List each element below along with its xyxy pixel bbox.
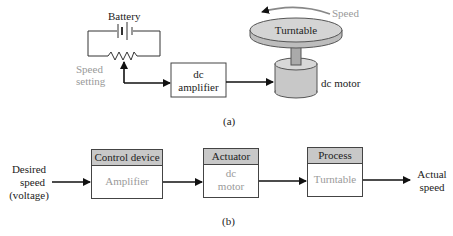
speed-setting-label-1: Speed [76,63,103,75]
caption-a: (a) [223,115,235,127]
block-control-device: Control device Amplifier [91,149,163,199]
speed-label: Speed [332,7,359,19]
block-process: Process Turntable [307,147,363,197]
amplifier-label-2: amplifier [171,81,226,93]
speed-setting-label-2: setting [76,75,105,87]
block-header: Control device [92,150,162,166]
motor-label: dc motor [321,77,360,89]
amplifier-label-1: dc [171,68,226,80]
input-label-1: Desired [2,163,56,175]
block-actuator: Actuator dc motor [203,148,259,198]
block-header: Actuator [204,149,258,165]
block-body-2: motor [204,180,258,193]
block-body-1: dc [204,165,258,180]
output-label-1: Actual [412,168,452,180]
battery-icon [118,22,132,40]
turntable-label: Turntable [256,24,336,36]
block-header: Process [308,148,362,164]
rotation-arrow-icon [262,7,330,14]
block-body: Turntable [308,164,362,186]
input-label-2: speed [20,176,45,188]
resistor-icon [108,52,137,60]
motor-icon [275,47,317,98]
battery-label: Battery [108,10,140,22]
output-label-2: speed [412,181,452,193]
block-body: Amplifier [92,166,162,188]
caption-b: (b) [222,215,235,227]
input-label-3: (voltage) [2,189,56,201]
